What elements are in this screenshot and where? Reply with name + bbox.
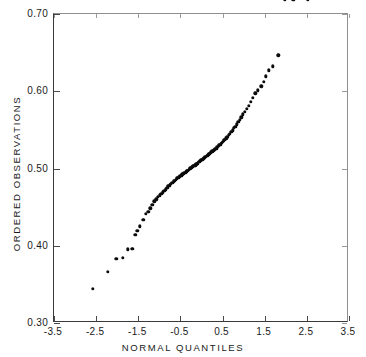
x-tick bbox=[265, 316, 266, 321]
y-tick bbox=[54, 246, 60, 247]
clipped-title bbox=[0, 0, 366, 7]
y-tick-right bbox=[342, 169, 347, 170]
x-axis-title: NORMAL QUANTILES bbox=[0, 342, 366, 353]
x-tick-top bbox=[307, 14, 308, 18]
x-tick-label: 3.5 bbox=[341, 326, 356, 337]
y-tick-right bbox=[342, 14, 347, 15]
normal-probability-plot-figure: -3.5-2.5-1.5-0.50.51.52.53.50.300.400.50… bbox=[0, 0, 366, 357]
x-tick bbox=[307, 316, 308, 321]
y-tick-right bbox=[342, 246, 347, 247]
x-tick bbox=[349, 316, 350, 321]
x-tick-label: -3.5 bbox=[44, 326, 62, 337]
x-tick bbox=[180, 316, 181, 321]
x-tick bbox=[138, 316, 139, 321]
x-tick-label: 2.5 bbox=[298, 326, 313, 337]
y-tick-label: 0.30 bbox=[4, 317, 48, 328]
x-tick-top bbox=[180, 14, 181, 18]
y-tick-right bbox=[342, 91, 347, 92]
y-tick bbox=[54, 14, 60, 15]
x-tick bbox=[96, 316, 97, 321]
y-tick-right bbox=[342, 323, 347, 324]
x-tick-top bbox=[223, 14, 224, 18]
y-axis-title: ORDERED OBSERVATIONS bbox=[11, 74, 22, 274]
x-tick bbox=[223, 316, 224, 321]
x-tick-top bbox=[96, 14, 97, 18]
x-tick-label: -2.5 bbox=[86, 326, 104, 337]
x-tick-label: 1.5 bbox=[256, 326, 271, 337]
y-tick-label: 0.70 bbox=[4, 8, 48, 19]
x-tick-top bbox=[349, 14, 350, 18]
x-tick-label: -0.5 bbox=[170, 326, 188, 337]
y-tick bbox=[54, 91, 60, 92]
x-tick-label: -1.5 bbox=[128, 326, 146, 337]
y-tick bbox=[54, 323, 60, 324]
y-tick bbox=[54, 169, 60, 170]
plot-area bbox=[53, 13, 348, 322]
x-tick-label: 0.5 bbox=[214, 326, 229, 337]
x-tick bbox=[54, 316, 55, 321]
x-tick-top bbox=[265, 14, 266, 18]
x-tick-top bbox=[138, 14, 139, 18]
